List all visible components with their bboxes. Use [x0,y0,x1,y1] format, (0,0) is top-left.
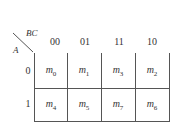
row-header: 1 [24,98,32,109]
minterm-cell: m7 [101,98,135,112]
row-header: 0 [24,65,32,76]
column-header: 01 [68,36,102,47]
minterm-cell: m4 [34,98,68,112]
minterm-cell: m5 [67,98,101,112]
grid-line [34,121,170,122]
column-header: 10 [135,36,169,47]
minterm-cell: m0 [34,64,68,78]
minterm-cell: m1 [67,64,101,78]
minterm-cell: m3 [101,64,135,78]
grid-line [34,88,170,89]
column-variable-label: BC [26,28,38,38]
minterm-cell: m6 [135,98,169,112]
column-header: 00 [38,36,72,47]
row-variable-label: A [13,45,19,55]
column-header: 11 [102,36,136,47]
minterm-cell: m2 [135,64,169,78]
